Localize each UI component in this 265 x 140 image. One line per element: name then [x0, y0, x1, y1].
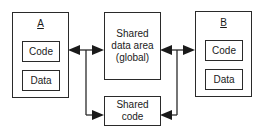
process-b-box: B Code Data [195, 11, 252, 97]
arrowhead-into-shared-code-right [160, 110, 172, 120]
shared-code-box: Shared code [104, 96, 161, 126]
process-b-data-label: Data [213, 74, 234, 85]
shared-data-area-label: Shared data area (global) [105, 13, 160, 79]
process-b-label: B [196, 17, 251, 28]
process-b-data-box: Data [205, 69, 243, 90]
process-a-code-label: Code [29, 46, 53, 57]
arrowhead-into-shared-data-right [160, 45, 172, 55]
process-a-label: A [13, 18, 68, 29]
process-b-code-label: Code [212, 45, 236, 56]
shared-data-area-box: Shared data area (global) [104, 12, 161, 80]
arrowhead-into-b [183, 45, 195, 55]
process-a-box: A Code Data [12, 12, 69, 98]
process-a-code-box: Code [22, 41, 60, 62]
arrowhead-into-shared-code-left [92, 110, 104, 120]
process-a-data-box: Data [22, 70, 60, 91]
shared-code-label: Shared code [105, 97, 160, 125]
process-a-data-label: Data [30, 75, 51, 86]
process-b-code-box: Code [205, 40, 243, 61]
arrowhead-into-shared-data-left [92, 45, 104, 55]
arrowhead-into-a [68, 45, 80, 55]
